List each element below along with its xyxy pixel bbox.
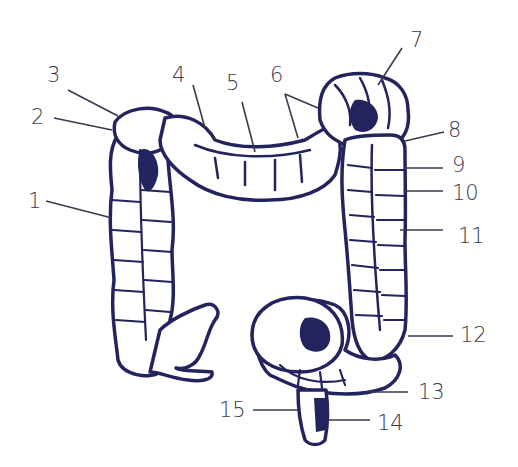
label-7: 7: [410, 30, 423, 51]
label-15: 15: [219, 400, 246, 421]
label-6: 6: [270, 65, 283, 86]
label-11: 11: [458, 226, 485, 247]
label-5: 5: [226, 73, 239, 94]
label-10: 10: [452, 183, 479, 204]
label-14: 14: [377, 413, 404, 434]
label-3: 3: [47, 65, 60, 86]
label-1: 1: [28, 191, 41, 212]
label-12: 12: [460, 325, 487, 346]
label-9: 9: [452, 155, 465, 176]
label-4: 4: [172, 65, 185, 86]
colon-diagram: 1 2 3 4 5 6 7 8 9 10 11 12 13 14 15: [0, 0, 518, 467]
label-8: 8: [448, 120, 461, 141]
label-13: 13: [418, 382, 445, 403]
label-2: 2: [31, 107, 44, 128]
transverse-colon: [160, 116, 340, 200]
